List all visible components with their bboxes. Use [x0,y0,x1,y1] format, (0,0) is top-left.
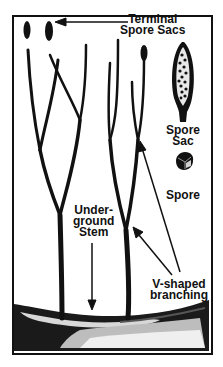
label-v-shaped-branching: V-shaped branching [150,279,208,301]
right-plant [109,40,145,318]
arrow-v-branch-lower [139,235,172,275]
spore-sac-detail [172,42,194,122]
label-spore-sac: Spore Sac [166,125,200,147]
label-line: Stem [73,227,114,238]
arrow-v-branch-upper [142,148,180,272]
terminal-spore-sac-2 [45,21,53,41]
label-line: Spore Sacs [120,25,185,36]
label-line: branching [150,290,208,301]
label-spore: Spore [166,190,200,201]
left-plant [28,45,94,318]
soil-ground [14,300,209,351]
spore-detail [176,152,193,170]
label-line: Sac [166,136,200,147]
label-underground-stem: Under- ground Stem [73,205,114,238]
terminal-spore-sac-3 [141,45,148,61]
plant-illustration [0,0,223,367]
label-terminal-spore-sacs: Terminal Spore Sacs [120,14,185,36]
terminal-spore-sac-1 [24,21,31,39]
